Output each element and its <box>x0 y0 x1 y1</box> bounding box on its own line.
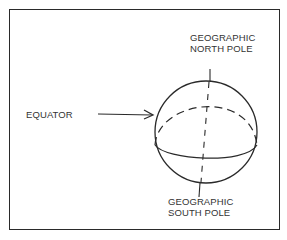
south-pole-label-line1: GEOGRAPHIC <box>168 196 233 207</box>
south-pole-label-line2: SOUTH POLE <box>168 207 233 218</box>
north-pole-label-line2: NORTH POLE <box>190 43 255 54</box>
axis-dashed <box>201 82 209 182</box>
globe-outline <box>155 81 257 183</box>
equator-line <box>155 145 257 158</box>
south-pole-label: GEOGRAPHIC SOUTH POLE <box>168 196 233 218</box>
north-pole-label: GEOGRAPHIC NORTH POLE <box>190 32 255 54</box>
equator-label: EQUATOR <box>26 109 73 120</box>
south-pole-tick <box>199 183 200 197</box>
equator-arrow-shaft <box>98 114 152 115</box>
equator-back-dashed <box>155 107 257 145</box>
north-pole-label-line1: GEOGRAPHIC <box>190 32 255 43</box>
